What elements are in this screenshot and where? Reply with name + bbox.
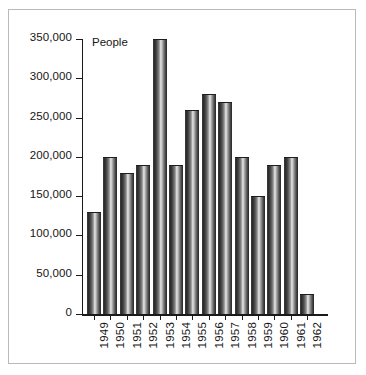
- bar-fill: [251, 196, 265, 314]
- x-tick-mark: [274, 316, 275, 320]
- x-tick-label: 1952: [147, 322, 159, 348]
- x-tick-label: 1953: [164, 322, 176, 348]
- bar[interactable]: [283, 39, 299, 314]
- bar-fill: [169, 165, 183, 314]
- x-tick-mark: [176, 316, 177, 320]
- bar[interactable]: [119, 39, 135, 314]
- y-tick-label: 0: [66, 306, 73, 318]
- plot-area: People 050,000100,000150,000200,000250,0…: [9, 10, 356, 364]
- y-tick-label: 350,000: [30, 31, 72, 43]
- x-tick-mark: [225, 316, 226, 320]
- x-tick-mark: [110, 316, 111, 320]
- y-tick-label: 100,000: [30, 227, 72, 239]
- x-tick-label: 1962: [311, 322, 323, 348]
- x-tick-label: 1951: [131, 322, 143, 348]
- x-tick-label: 1958: [246, 322, 258, 348]
- x-tick-label: 1959: [262, 322, 274, 348]
- bar[interactable]: [168, 39, 184, 314]
- bar-fill: [136, 165, 150, 314]
- bar[interactable]: [152, 39, 168, 314]
- bar[interactable]: [299, 39, 315, 314]
- y-tick-label: 300,000: [30, 70, 72, 82]
- x-tick-mark: [160, 316, 161, 320]
- x-tick-label: 1957: [229, 322, 241, 348]
- x-tick-label: 1961: [295, 322, 307, 348]
- x-tick-mark: [291, 316, 292, 320]
- x-tick-mark: [127, 316, 128, 320]
- bar[interactable]: [234, 39, 250, 314]
- bar[interactable]: [86, 39, 102, 314]
- bar-fill: [153, 39, 167, 314]
- chart-frame: People 050,000100,000150,000200,000250,0…: [8, 9, 356, 364]
- bar-fill: [87, 212, 101, 314]
- bar-fill: [300, 294, 314, 314]
- x-tick-label: 1954: [180, 322, 192, 348]
- x-tick-mark: [94, 316, 95, 320]
- bar[interactable]: [217, 39, 233, 314]
- bar-fill: [185, 110, 199, 314]
- bar-fill: [267, 165, 281, 314]
- bar-fill: [235, 157, 249, 314]
- bar-fill: [103, 157, 117, 314]
- x-tick-mark: [143, 316, 144, 320]
- bar[interactable]: [135, 39, 151, 314]
- y-tick-label: 250,000: [30, 110, 72, 122]
- x-tick-label: 1949: [98, 322, 110, 348]
- x-tick-label: 1956: [213, 322, 225, 348]
- bar[interactable]: [201, 39, 217, 314]
- x-tick-mark: [209, 316, 210, 320]
- y-tick-label: 50,000: [36, 267, 72, 279]
- bar[interactable]: [250, 39, 266, 314]
- x-tick-label: 1955: [196, 322, 208, 348]
- bars-layer: [82, 39, 328, 314]
- x-tick-label: 1960: [278, 322, 290, 348]
- x-tick-mark: [242, 316, 243, 320]
- bar[interactable]: [102, 39, 118, 314]
- bar-fill: [202, 94, 216, 314]
- x-tick-mark: [258, 316, 259, 320]
- y-tick-mark: [76, 314, 83, 315]
- x-tick-mark: [307, 316, 308, 320]
- x-tick-mark: [192, 316, 193, 320]
- bar[interactable]: [184, 39, 200, 314]
- x-tick-label: 1950: [114, 322, 126, 348]
- y-tick-label: 150,000: [30, 188, 72, 200]
- bar-fill: [120, 173, 134, 314]
- y-tick-label: 200,000: [30, 149, 72, 161]
- bar-fill: [218, 102, 232, 314]
- bar-fill: [284, 157, 298, 314]
- bar[interactable]: [266, 39, 282, 314]
- x-axis-ticks: 1949195019511952195319541955195619571958…: [82, 316, 328, 364]
